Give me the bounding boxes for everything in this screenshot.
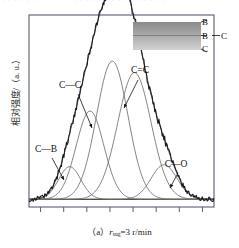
inset-label-b: B (202, 17, 208, 27)
spectrum-chart: BBCCC—BC—CC=CC—O (0, 0, 239, 225)
inset-label-b-c2: C (221, 31, 227, 41)
inset-label-b-c: B (202, 31, 208, 41)
figure-panel: · · · · · · · · · · · · · · · · · · · · … (0, 0, 239, 248)
peak-label-c=c: C=C (131, 65, 149, 75)
peak-label-c-b: C—B (35, 144, 57, 154)
layer-gradient-inset (133, 22, 201, 50)
peak-label-c-c: C—C (59, 80, 81, 90)
inset-label-c: C (202, 44, 208, 54)
caption-index: （a） (87, 227, 109, 237)
caption-value: =3 r/min (120, 227, 151, 237)
figure-caption: （a）rsug=3 r/min (0, 225, 239, 238)
plot-area: BBCCC—BC—CC=CC—O (0, 0, 239, 225)
peak-label-c-o: C—O (165, 159, 188, 169)
